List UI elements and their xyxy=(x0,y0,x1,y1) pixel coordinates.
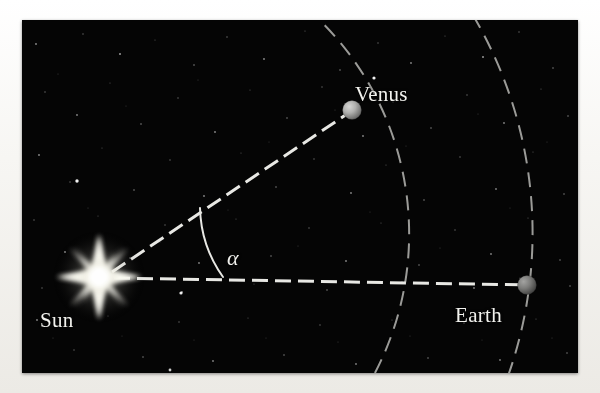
diagram-canvas xyxy=(22,20,578,373)
earth-orbit-arc xyxy=(446,20,533,373)
orbit-arcs xyxy=(269,20,533,373)
connection-lines xyxy=(112,108,530,285)
sun-earth-dashed-line xyxy=(114,278,530,285)
figure-root: Sun Venus Earth α xyxy=(0,0,600,393)
angle-arc xyxy=(200,208,223,277)
sky-panel: Sun Venus Earth α xyxy=(22,20,578,373)
venus-body xyxy=(343,101,362,120)
venus-orbit-arc xyxy=(269,20,409,373)
sun-body xyxy=(53,231,145,323)
angle-alpha-label: α xyxy=(227,245,239,271)
earth-body xyxy=(518,276,537,295)
